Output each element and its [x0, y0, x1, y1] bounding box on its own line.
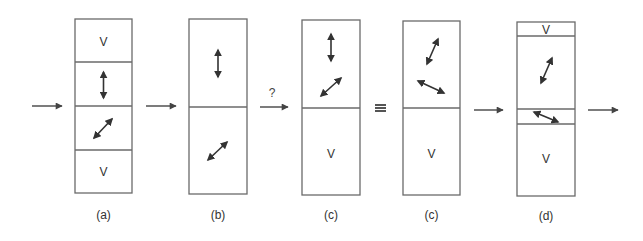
equivalence-symbol: [375, 104, 386, 112]
panel-c-right: V (c): [403, 21, 460, 222]
panel-label: (c): [425, 208, 439, 222]
diagonal-double-arrow-icon: [208, 142, 227, 160]
shallow-tilted-double-arrow-icon: [534, 112, 558, 122]
void-layer-label: V: [327, 147, 335, 161]
panel-c-left: V (c): [302, 20, 360, 222]
void-layer-label: V: [99, 35, 107, 49]
question-mark-label: ?: [269, 86, 276, 100]
panel-label: (a): [96, 208, 111, 222]
void-layer-label: V: [99, 165, 107, 179]
panel-d: V V (d): [517, 22, 575, 223]
shallow-tilted-double-arrow-icon: [418, 81, 444, 93]
diagram-canvas: ? V V (a) (b) V (c): [0, 0, 643, 241]
panel-a: V V (a): [75, 19, 132, 222]
panel-label: (c): [324, 208, 338, 222]
diagonal-double-arrow-icon: [321, 78, 341, 96]
diagonal-double-arrow-icon: [94, 119, 112, 138]
flow-arrow-b-to-c: ?: [260, 86, 288, 107]
void-layer-label: V: [542, 152, 550, 166]
steep-tilted-double-arrow-icon: [541, 58, 552, 83]
steep-tilted-double-arrow-icon: [427, 39, 438, 64]
void-layer-label: V: [542, 23, 550, 37]
void-layer-label: V: [427, 147, 435, 161]
panel-b: (b): [189, 19, 247, 222]
panel-label: (b): [211, 208, 226, 222]
panel-label: (d): [539, 209, 554, 223]
